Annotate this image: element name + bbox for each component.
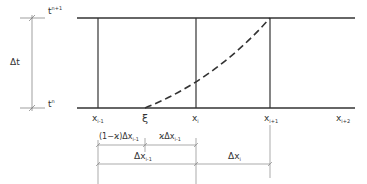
label-x-i-1: xi-1 bbox=[92, 114, 104, 124]
characteristic-curve bbox=[145, 18, 270, 108]
dim-label-cell-prev: Δxi-1 bbox=[134, 152, 152, 162]
label-x-i: xi bbox=[192, 114, 199, 124]
delta-t-label: Δt bbox=[10, 58, 20, 67]
label-x-i+1: xi+1 bbox=[264, 114, 278, 124]
time-label-n1: tn+1 bbox=[48, 6, 62, 16]
diagram-canvas bbox=[0, 0, 367, 184]
dim-label-left-part: (1−ϰ)Δxi-1 bbox=[99, 133, 139, 142]
dim-label-right-part: ϰΔxi-1 bbox=[159, 133, 181, 142]
label-x-i+2: xi+2 bbox=[336, 114, 350, 124]
label-xi: ξ bbox=[142, 113, 148, 124]
time-label-n: tn bbox=[48, 99, 55, 109]
dim-label-cell-curr: Δxi bbox=[228, 152, 241, 162]
